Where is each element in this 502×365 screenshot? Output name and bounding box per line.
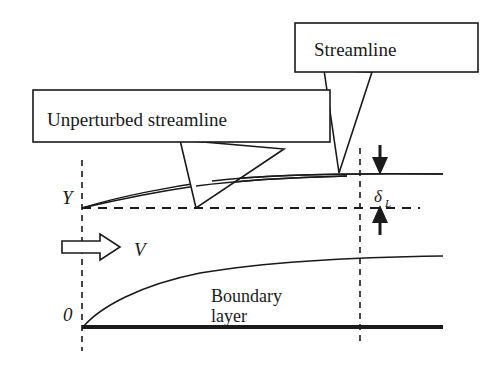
delta-L-label-group: δ L [374,187,391,209]
callout-unperturbed-streamline[interactable]: Unperturbed streamline [33,90,330,208]
boundary-layer-diagram: Streamline Unperturbed streamline δ L Y [0,0,502,365]
boundary-layer-label-line2: layer [211,306,247,326]
unperturbed-callout-label: Unperturbed streamline [47,109,227,130]
delta-arrow-down-head [372,157,388,175]
freestream-velocity-arrow [62,234,120,260]
diagram-canvas: Streamline Unperturbed streamline δ L Y [0,0,502,365]
velocity-label: V [134,239,148,260]
y-axis-label: Y [62,187,75,208]
velocity-arrow-outline [62,234,120,260]
boundary-layer-label-line1: Boundary [211,286,282,306]
unperturbed-pointer-wedge [180,140,284,208]
streamline-pointer-wedge [324,70,372,173]
delta-subscript-L: L [384,197,391,209]
delta-symbol: δ [374,187,383,206]
origin-label: 0 [63,304,73,325]
streamline-callout-label: Streamline [314,39,396,60]
